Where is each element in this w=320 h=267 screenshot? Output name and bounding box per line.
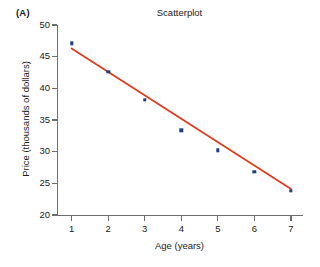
data-point — [143, 98, 146, 101]
x-tick-label-container: 3 — [130, 223, 160, 236]
x-tick-mark — [181, 216, 182, 221]
x-tick-label: 3 — [130, 223, 160, 234]
x-tick-label-container: 7 — [276, 223, 306, 236]
x-tick-label: 1 — [57, 223, 87, 234]
panel-label: (A) — [16, 7, 30, 18]
x-tick-label: 5 — [203, 223, 233, 234]
x-tick-label: 4 — [166, 223, 196, 234]
data-point — [70, 42, 73, 45]
y-tick-mark — [52, 56, 57, 57]
y-tick-mark — [52, 214, 57, 215]
x-tick-label-container: 1 — [57, 223, 87, 236]
data-point — [289, 189, 292, 192]
y-axis-label: Price (thousands of dollars) — [20, 24, 31, 214]
x-tick-mark — [144, 216, 145, 221]
x-tick-label: 7 — [276, 223, 306, 234]
x-tick-label-container: 4 — [166, 223, 196, 236]
regression-line — [0, 0, 320, 267]
x-tick-mark — [217, 216, 218, 221]
data-point — [180, 128, 183, 131]
x-tick-mark — [290, 216, 291, 221]
data-point — [216, 149, 219, 152]
chart-title: Scatterplot — [57, 7, 302, 18]
x-tick-mark — [71, 216, 72, 221]
x-tick-mark — [108, 216, 109, 221]
y-axis-line — [57, 25, 58, 216]
y-axis-label-container: Price (thousands of dollars) — [20, 24, 34, 214]
data-point — [253, 170, 256, 173]
scatterplot-figure: (A) Scatterplot 20253035404550 1234567 A… — [0, 0, 320, 267]
y-tick-mark — [52, 183, 57, 184]
y-tick-mark — [52, 24, 57, 25]
x-tick-mark — [254, 216, 255, 221]
x-tick-label-container: 2 — [93, 223, 123, 236]
data-point — [106, 70, 109, 73]
x-axis-label: Age (years) — [57, 240, 302, 251]
x-tick-label: 2 — [93, 223, 123, 234]
x-tick-label: 6 — [239, 223, 269, 234]
y-tick-mark — [52, 88, 57, 89]
y-tick-mark — [52, 119, 57, 120]
x-tick-label-container: 6 — [239, 223, 269, 236]
y-tick-mark — [52, 151, 57, 152]
x-tick-label-container: 5 — [203, 223, 233, 236]
